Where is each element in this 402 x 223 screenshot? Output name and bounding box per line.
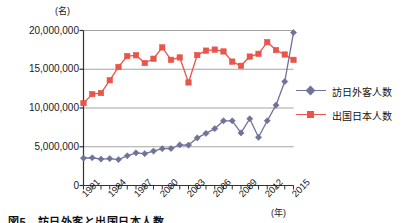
data-point — [89, 155, 95, 161]
data-point — [230, 59, 235, 64]
data-point — [186, 80, 191, 85]
data-point — [273, 102, 279, 108]
data-point — [150, 148, 156, 154]
legend-item-departures[interactable]: 出国日本人数 — [296, 103, 400, 127]
data-point — [151, 56, 156, 61]
data-point — [212, 47, 217, 52]
chart-figure: (名) 05,000,00010,000,00015,000,00020,000… — [0, 0, 402, 223]
figure-caption: 図5 訪日外客と出国日本人数 — [8, 213, 164, 223]
data-point — [291, 57, 296, 62]
square-marker-icon — [307, 111, 314, 118]
data-point — [107, 78, 112, 83]
data-point — [81, 100, 86, 105]
data-point — [116, 64, 121, 69]
data-point — [98, 90, 103, 95]
data-point — [195, 52, 200, 57]
data-point — [133, 53, 138, 58]
data-point — [107, 156, 113, 162]
series-line-departures — [84, 42, 294, 103]
data-point — [256, 51, 261, 56]
data-point — [125, 53, 130, 58]
data-point — [90, 91, 95, 96]
data-point — [264, 118, 270, 124]
data-point — [142, 60, 147, 65]
data-point — [124, 153, 130, 159]
x-axis-unit-label: (年) — [271, 206, 286, 219]
data-point — [115, 156, 121, 162]
data-point — [160, 45, 165, 50]
legend-key-square — [296, 108, 326, 122]
data-point — [203, 130, 209, 136]
data-point — [238, 63, 243, 68]
data-point — [221, 49, 226, 54]
data-point — [265, 39, 270, 44]
legend-key-diamond — [296, 84, 326, 98]
series-line-visitors — [84, 33, 294, 160]
data-point — [255, 134, 261, 140]
chart-legend: 訪日外客人数 出国日本人数 — [296, 79, 400, 127]
legend-label-departures: 出国日本人数 — [332, 108, 392, 123]
data-point — [133, 150, 139, 156]
diamond-marker-icon — [306, 85, 316, 95]
data-point — [98, 156, 104, 162]
legend-item-visitors[interactable]: 訪日外客人数 — [296, 79, 400, 103]
data-point — [282, 52, 287, 57]
data-point — [177, 55, 182, 60]
data-point — [247, 116, 253, 122]
data-point — [80, 155, 86, 161]
data-point — [168, 57, 173, 62]
data-point — [247, 54, 252, 59]
data-point — [142, 151, 148, 157]
data-point — [273, 47, 278, 52]
data-point — [282, 78, 288, 84]
data-point — [203, 48, 208, 53]
legend-label-visitors: 訪日外客人数 — [332, 84, 392, 99]
